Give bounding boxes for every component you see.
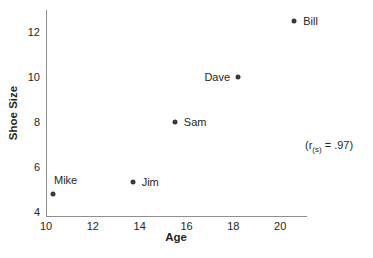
x-tick-label: 12 [87, 220, 99, 232]
point-label-sam: Sam [184, 116, 207, 128]
data-point-dave [236, 75, 241, 80]
scatter-plot: Age Shoe Size (r(s) = .97) 4681012101214… [0, 0, 373, 258]
x-tick-label: 16 [180, 220, 192, 232]
data-point-mike [51, 191, 56, 196]
x-axis-title: Age [46, 231, 306, 243]
x-tick-label: 18 [227, 220, 239, 232]
data-point-jim [130, 180, 135, 185]
y-tick-label: 6 [6, 161, 40, 173]
data-point-bill [292, 19, 297, 24]
point-label-dave: Dave [204, 71, 230, 83]
y-tick-label: 10 [6, 71, 40, 83]
y-tick-label: 4 [6, 206, 40, 218]
x-tick-label: 10 [40, 220, 52, 232]
y-tick-label: 12 [6, 26, 40, 38]
point-label-bill: Bill [303, 15, 318, 27]
plot-area [46, 10, 307, 217]
y-axis-title: Shoe Size [7, 86, 19, 140]
x-tick-label: 20 [274, 220, 286, 232]
x-tick-label: 14 [134, 220, 146, 232]
correlation-annotation: (r(s) = .97) [305, 139, 353, 154]
annotation-subscript: (s) [312, 145, 321, 154]
point-label-mike: Mike [54, 174, 77, 186]
annotation-suffix: = .97) [322, 139, 354, 151]
data-point-sam [172, 119, 177, 124]
y-tick-label: 8 [6, 116, 40, 128]
point-label-jim: Jim [142, 176, 159, 188]
